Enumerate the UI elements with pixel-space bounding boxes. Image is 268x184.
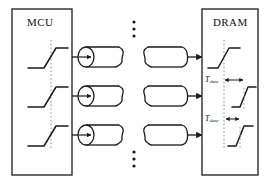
channel-3-end-cap (182, 125, 188, 145)
skew-label-row-3-subscript: skew (209, 118, 218, 123)
channel-1 (72, 47, 202, 67)
channel-2-break-right (144, 86, 151, 106)
channel-1-end-cap (182, 47, 188, 67)
figure-canvas: MCU DRAM Tskew Tskew (0, 0, 268, 184)
channel-3 (72, 125, 202, 145)
dram-block (202, 9, 258, 175)
skew-label-row-2: Tskew (205, 75, 218, 84)
channel-2 (72, 86, 202, 106)
channel-1-break-left (116, 47, 123, 67)
mcu-box (12, 9, 72, 175)
skew-label-row-2-subscript: skew (209, 79, 218, 84)
mcu-block (12, 9, 72, 175)
channel-2-end-cap (182, 86, 188, 106)
skew-label-row-3: Tskew (205, 114, 218, 123)
mcu-title: MCU (27, 16, 53, 28)
channel-3-break-left (116, 125, 123, 145)
channel-1-break-right (144, 47, 151, 67)
dram-title: DRAM (213, 16, 248, 28)
channel-2-break-left (116, 86, 123, 106)
channel-3-break-right (144, 125, 151, 145)
bottom-ellipsis-icon (132, 150, 135, 167)
top-ellipsis-icon (132, 20, 135, 37)
dram-box (202, 9, 258, 175)
